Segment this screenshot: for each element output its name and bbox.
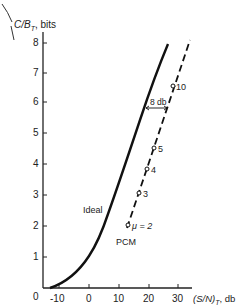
y-tick-2: 2 — [33, 221, 39, 231]
y-tick-7: 7 — [33, 68, 39, 78]
x-tick-10: 10 — [113, 294, 124, 304]
x-axis-label: (S/N)T, db — [193, 294, 235, 307]
y-tick-1: 1 — [33, 252, 39, 262]
gap-label: 8 db — [150, 97, 167, 107]
mu-10-label: 10 — [176, 82, 186, 92]
mu-3-label: 3 — [143, 189, 148, 199]
mu-2-label: μ = 2 — [132, 221, 152, 231]
y-tick-4: 4 — [33, 159, 39, 169]
y-tick-8: 8 — [33, 38, 39, 48]
y-axis-label: C/BT, bits — [14, 20, 56, 34]
mu-4-label: 4 — [151, 165, 156, 175]
y-tick-5: 5 — [33, 128, 39, 138]
y-tick-6: 6 — [33, 97, 39, 107]
mu-5-label: 5 — [158, 144, 163, 154]
x-tick-20: 20 — [143, 294, 154, 304]
origin-label: 0 — [33, 292, 39, 302]
x-tick-30: 30 — [172, 294, 183, 304]
pcm-label: PCM — [116, 237, 136, 247]
x-tick-neg10: -10 — [50, 294, 64, 304]
x-tick-0: 0 — [86, 294, 92, 304]
ideal-label: Ideal — [83, 205, 103, 215]
decorative-mark — [2, 4, 12, 22]
y-tick-3: 3 — [33, 190, 39, 200]
